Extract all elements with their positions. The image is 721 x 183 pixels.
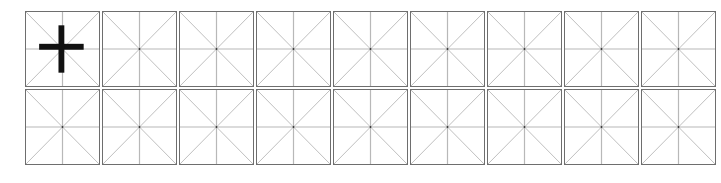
practice-cell[interactable] (179, 89, 254, 165)
mi-grid-guides-icon (257, 90, 330, 164)
practice-cell[interactable] (564, 11, 639, 87)
practice-cell[interactable] (102, 11, 177, 87)
mi-grid-guides-icon (334, 90, 407, 164)
practice-cell[interactable] (641, 11, 716, 87)
mi-grid-guides-icon (488, 12, 561, 86)
mi-grid-guides-icon (26, 90, 99, 164)
practice-cell[interactable] (25, 11, 100, 87)
practice-cell[interactable] (641, 89, 716, 165)
grid-row (25, 11, 718, 87)
mi-grid-guides-icon (103, 90, 176, 164)
practice-cell[interactable] (487, 11, 562, 87)
mi-grid-guides-icon (180, 12, 253, 86)
practice-cell[interactable] (487, 89, 562, 165)
mi-grid-guides-icon (257, 12, 330, 86)
practice-cell[interactable] (256, 89, 331, 165)
character-shi-stroke-icon (26, 12, 99, 86)
practice-cell[interactable] (564, 89, 639, 165)
mi-grid-guides-icon (565, 12, 638, 86)
practice-cell[interactable] (410, 11, 485, 87)
mi-grid-guides-icon (642, 90, 715, 164)
mi-grid-guides-icon (411, 90, 484, 164)
practice-cell[interactable] (102, 89, 177, 165)
practice-cell[interactable] (25, 89, 100, 165)
mi-grid-guides-icon (103, 12, 176, 86)
practice-grid (25, 11, 718, 165)
practice-cell[interactable] (333, 89, 408, 165)
practice-cell[interactable] (410, 89, 485, 165)
mi-grid-guides-icon (642, 12, 715, 86)
mi-grid-guides-icon (565, 90, 638, 164)
practice-cell[interactable] (256, 11, 331, 87)
practice-cell[interactable] (333, 11, 408, 87)
mi-grid-guides-icon (411, 12, 484, 86)
grid-row (25, 89, 718, 165)
mi-grid-guides-icon (180, 90, 253, 164)
mi-grid-guides-icon (488, 90, 561, 164)
mi-grid-guides-icon (334, 12, 407, 86)
practice-cell[interactable] (179, 11, 254, 87)
